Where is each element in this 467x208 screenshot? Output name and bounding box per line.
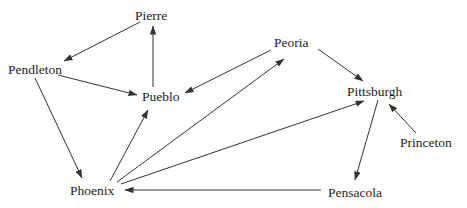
edge-pendleton-to-phoenix (35, 78, 82, 178)
edge-phoenix-to-pueblo (110, 110, 148, 181)
edge-pierre-to-pendleton (64, 22, 140, 61)
edge-phoenix-to-pittsburgh (121, 101, 364, 184)
node-label-phoenix: Phoenix (70, 184, 114, 198)
edge-princeton-to-pittsburgh (389, 104, 416, 133)
edge-layer (0, 0, 467, 208)
node-label-pierre: Pierre (135, 9, 167, 23)
node-label-pittsburgh: Pittsburgh (347, 85, 402, 99)
edge-peoria-to-pittsburgh (318, 49, 363, 81)
edge-pendleton-to-pueblo (58, 75, 137, 95)
node-label-pensacola: Pensacola (328, 186, 382, 200)
node-label-peoria: Peoria (274, 36, 309, 50)
graph-diagram: PierrePendletonPeoriaPuebloPittsburghPri… (0, 0, 467, 208)
edge-peoria-to-pueblo (185, 50, 271, 93)
node-label-princeton: Princeton (400, 136, 452, 150)
node-label-pendleton: Pendleton (8, 63, 62, 77)
edge-pittsburgh-to-pensacola (355, 100, 378, 180)
node-label-pueblo: Pueblo (142, 90, 180, 104)
